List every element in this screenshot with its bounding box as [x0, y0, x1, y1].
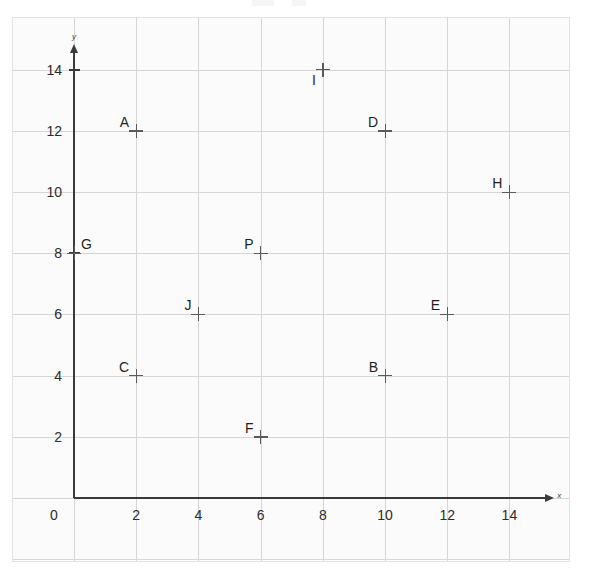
- figure-canvas: xy 024681012142468101214 ABCDEFGHIJP: [0, 0, 592, 574]
- data-point-label: B: [369, 360, 378, 374]
- x-tick-label: 12: [439, 508, 455, 522]
- data-point-label: C: [119, 360, 129, 374]
- plus-marker-icon: [260, 246, 261, 260]
- gridline-horizontal: [13, 559, 569, 560]
- x-axis-line: [74, 497, 545, 499]
- data-point-label: P: [244, 237, 253, 251]
- x-tick-label: 10: [377, 508, 393, 522]
- y-tick-label: 2: [30, 430, 62, 444]
- gridline-horizontal: [13, 70, 569, 71]
- data-point-label: J: [184, 298, 191, 312]
- y-axis-name: y: [72, 33, 76, 41]
- data-point-label: D: [368, 115, 378, 129]
- plus-marker-icon: [136, 369, 137, 383]
- x-tick-label: 14: [502, 508, 518, 522]
- x-axis-name: x: [557, 492, 561, 500]
- y-axis-line: [73, 53, 75, 498]
- gridline-vertical: [385, 18, 386, 561]
- plot-area: xy 024681012142468101214 ABCDEFGHIJP: [12, 17, 570, 562]
- y-tick-label: 4: [30, 369, 62, 383]
- gridline-horizontal: [13, 376, 569, 377]
- plus-marker-icon: [74, 246, 75, 260]
- data-point-label: F: [245, 421, 254, 435]
- plus-marker-icon: [509, 185, 510, 199]
- plus-marker-icon: [385, 369, 386, 383]
- y-tick-label: 8: [30, 246, 62, 260]
- plus-marker-icon: [198, 307, 199, 321]
- gridline-horizontal: [13, 253, 569, 254]
- x-axis-arrowhead: [545, 494, 554, 502]
- plus-marker-icon: [447, 307, 448, 321]
- gridline-vertical: [509, 18, 510, 561]
- x-tick-label: 8: [319, 508, 327, 522]
- plus-marker-icon: [260, 430, 261, 444]
- plus-marker-icon: [136, 124, 137, 138]
- y-axis-arrowhead: [70, 44, 78, 53]
- y-tick-label: 6: [30, 307, 62, 321]
- data-point-label: H: [492, 176, 502, 190]
- gridline-horizontal: [13, 314, 569, 315]
- y-tick-label: 10: [30, 185, 62, 199]
- data-point-label: A: [120, 115, 129, 129]
- y-tick-mark: [69, 69, 80, 71]
- plus-marker-icon: [385, 124, 386, 138]
- data-point-label: E: [431, 298, 440, 312]
- data-point-label: I: [312, 73, 316, 87]
- gridline-horizontal: [13, 131, 569, 132]
- x-tick-label: 0: [50, 508, 58, 522]
- data-point-label: G: [81, 237, 92, 251]
- y-tick-label: 14: [30, 63, 62, 77]
- gridline-vertical: [136, 18, 137, 561]
- gridline-vertical: [198, 18, 199, 561]
- y-tick-label: 12: [30, 124, 62, 138]
- gridline-horizontal: [13, 192, 569, 193]
- x-tick-label: 4: [194, 508, 202, 522]
- gridline-vertical: [447, 18, 448, 561]
- gridline-vertical: [261, 18, 262, 561]
- x-tick-label: 2: [132, 508, 140, 522]
- clipped-text-sliver: [248, 0, 338, 6]
- plus-marker-icon: [322, 63, 323, 77]
- x-tick-label: 6: [257, 508, 265, 522]
- gridline-horizontal: [13, 437, 569, 438]
- gridline-vertical: [323, 18, 324, 561]
